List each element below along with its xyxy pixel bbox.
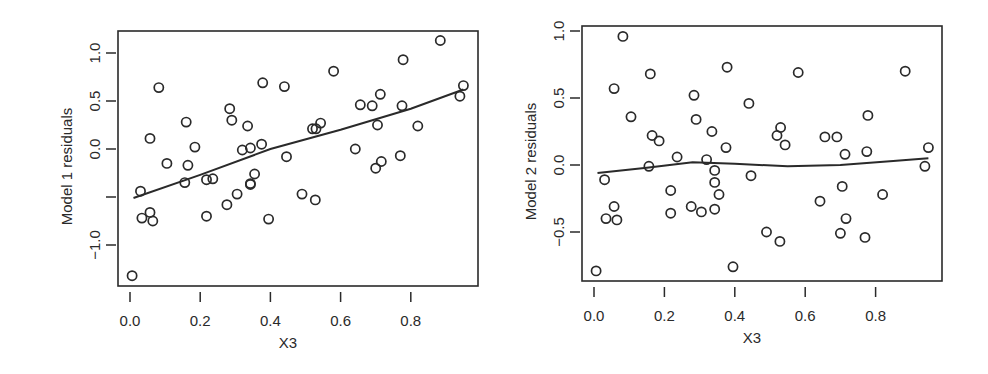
x-tick-label: 0.6 bbox=[795, 307, 816, 324]
data-point bbox=[148, 216, 157, 225]
data-point bbox=[297, 190, 306, 199]
data-point bbox=[137, 214, 146, 223]
data-point bbox=[190, 143, 199, 152]
data-point bbox=[396, 151, 405, 160]
x-tick-label: 0.8 bbox=[400, 312, 421, 329]
data-point bbox=[282, 152, 291, 161]
data-point bbox=[728, 262, 737, 271]
data-point bbox=[863, 111, 872, 120]
data-point bbox=[225, 104, 234, 113]
data-point bbox=[610, 84, 619, 93]
data-point bbox=[687, 202, 696, 211]
y-axis-label: Model 1 residuals bbox=[58, 108, 75, 226]
data-point bbox=[723, 63, 732, 72]
y-tick-label: 1.0 bbox=[550, 21, 567, 42]
data-point bbox=[397, 101, 406, 110]
model-2-residual-plot: 0.00.20.40.60.8X3−0.50.00.51.0Model 2 re… bbox=[522, 21, 942, 346]
x-tick-label: 0.8 bbox=[865, 307, 886, 324]
data-point bbox=[666, 209, 675, 218]
data-point bbox=[618, 32, 627, 41]
x-tick-label: 0.4 bbox=[724, 307, 745, 324]
data-point bbox=[154, 83, 163, 92]
x-tick-label: 0.0 bbox=[120, 312, 141, 329]
data-point bbox=[775, 237, 784, 246]
data-point bbox=[202, 175, 211, 184]
data-point bbox=[258, 78, 267, 87]
plot-frame bbox=[118, 31, 478, 286]
data-point bbox=[781, 140, 790, 149]
data-point bbox=[600, 175, 609, 184]
data-point bbox=[721, 143, 730, 152]
data-points bbox=[592, 32, 934, 276]
data-point bbox=[601, 214, 610, 223]
y-axis: −0.50.00.51.0Model 2 residuals bbox=[522, 21, 580, 247]
data-point bbox=[689, 91, 698, 100]
data-point bbox=[820, 132, 829, 141]
y-axis-label: Model 2 residuals bbox=[522, 103, 539, 221]
data-point bbox=[373, 120, 382, 129]
x-axis-label: X3 bbox=[743, 329, 761, 346]
data-point bbox=[878, 190, 887, 199]
data-point bbox=[673, 152, 682, 161]
data-point bbox=[280, 82, 289, 91]
data-point bbox=[351, 144, 360, 153]
data-point bbox=[697, 207, 706, 216]
y-tick-label: 0.5 bbox=[86, 91, 103, 112]
data-point bbox=[243, 121, 252, 130]
x-axis-label: X3 bbox=[279, 334, 297, 351]
data-point bbox=[744, 99, 753, 108]
x-tick-label: 0.0 bbox=[584, 307, 605, 324]
data-point bbox=[901, 67, 910, 76]
data-point bbox=[311, 195, 320, 204]
data-point bbox=[710, 166, 719, 175]
data-point bbox=[368, 101, 377, 110]
y-tick-label: 0.0 bbox=[86, 139, 103, 160]
x-axis: 0.00.20.40.60.8X3 bbox=[584, 287, 886, 346]
data-point bbox=[838, 182, 847, 191]
data-point bbox=[815, 197, 824, 206]
data-point bbox=[762, 227, 771, 236]
data-point bbox=[710, 205, 719, 214]
data-point bbox=[128, 271, 137, 280]
data-point bbox=[610, 202, 619, 211]
lowess-smoother-line bbox=[134, 90, 464, 199]
data-point bbox=[413, 121, 422, 130]
x-tick-label: 0.4 bbox=[260, 312, 281, 329]
data-point bbox=[714, 190, 723, 199]
data-point bbox=[399, 55, 408, 64]
data-point bbox=[841, 214, 850, 223]
data-point bbox=[772, 131, 781, 140]
data-point bbox=[329, 67, 338, 76]
figure: 0.00.20.40.60.8X3−1.00.00.51.0Model 1 re… bbox=[0, 0, 988, 374]
x-tick-label: 0.6 bbox=[330, 312, 351, 329]
data-point bbox=[162, 159, 171, 168]
data-point bbox=[356, 100, 365, 109]
model-1-residual-plot: 0.00.20.40.60.8X3−1.00.00.51.0Model 1 re… bbox=[58, 31, 478, 351]
data-point bbox=[692, 115, 701, 124]
data-point bbox=[836, 229, 845, 238]
data-point bbox=[794, 68, 803, 77]
y-tick-label: −1.0 bbox=[86, 230, 103, 260]
data-point bbox=[832, 132, 841, 141]
data-point bbox=[646, 69, 655, 78]
data-points bbox=[128, 36, 469, 280]
data-point bbox=[840, 150, 849, 159]
data-point bbox=[145, 134, 154, 143]
x-axis: 0.00.20.40.60.8X3 bbox=[120, 292, 422, 351]
data-point bbox=[707, 127, 716, 136]
data-point bbox=[455, 92, 464, 101]
y-tick-label: 1.0 bbox=[86, 43, 103, 64]
data-point bbox=[227, 116, 236, 125]
data-point bbox=[666, 186, 675, 195]
data-point bbox=[860, 233, 869, 242]
data-point bbox=[376, 90, 385, 99]
y-tick-label: 0.5 bbox=[550, 88, 567, 109]
data-point bbox=[250, 169, 259, 178]
data-point bbox=[202, 212, 211, 221]
x-tick-label: 0.2 bbox=[654, 307, 675, 324]
data-point bbox=[920, 162, 929, 171]
y-tick-label: 0.0 bbox=[550, 155, 567, 176]
data-point bbox=[436, 36, 445, 45]
data-point bbox=[257, 140, 266, 149]
data-point bbox=[233, 190, 242, 199]
